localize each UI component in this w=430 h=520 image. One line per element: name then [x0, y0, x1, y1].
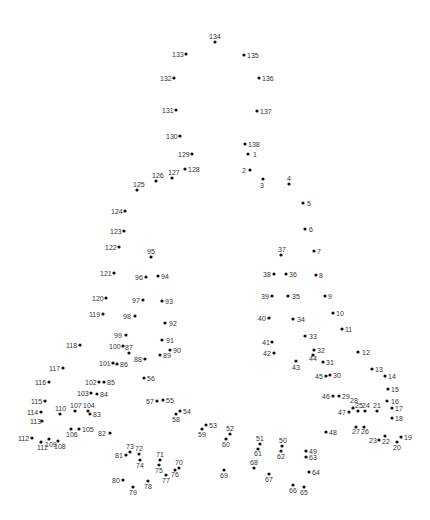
dot-label: 59 — [198, 431, 206, 438]
dot-16: 16 — [385, 398, 398, 405]
dot-label: 106 — [66, 431, 78, 438]
dot-label: 71 — [156, 451, 164, 458]
dot-119: 119 — [89, 311, 105, 318]
dot-marker — [121, 478, 124, 481]
dot-36: 36 — [284, 271, 296, 278]
dot-60: 60 — [222, 437, 230, 448]
dot-marker — [154, 179, 157, 182]
dot-marker — [307, 470, 310, 473]
dot-marker — [270, 340, 273, 343]
dot-label: 12 — [362, 349, 370, 356]
dot-79: 79 — [129, 485, 137, 496]
dot-92: 92 — [163, 320, 176, 327]
dot-82: 82 — [98, 430, 112, 437]
dot-94: 94 — [156, 273, 168, 280]
dot-label: 88 — [134, 356, 142, 363]
dot-137: 137 — [255, 108, 271, 115]
dot-78: 78 — [144, 479, 152, 490]
dot-100: 100 — [109, 343, 125, 350]
dot-marker — [160, 299, 163, 302]
dot-marker — [351, 406, 354, 409]
dot-label: 38 — [263, 271, 271, 278]
dot-label: 102 — [85, 379, 97, 386]
dot-115: 115 — [31, 398, 47, 405]
dot-marker — [248, 168, 251, 171]
dot-label: 11 — [345, 326, 352, 333]
dot-23: 23 — [369, 437, 381, 444]
dot-label: 41 — [262, 339, 270, 346]
dot-10: 10 — [331, 310, 343, 317]
dot-37: 37 — [278, 246, 286, 257]
dot-marker — [95, 392, 98, 395]
dot-label: 125 — [133, 181, 145, 188]
dot-marker — [115, 362, 118, 365]
dot-marker — [163, 321, 166, 324]
dot-51: 51 — [256, 435, 264, 446]
dot-label: 93 — [165, 298, 173, 305]
dot-marker — [183, 167, 186, 170]
dot-marker — [155, 399, 158, 402]
dot-marker — [156, 274, 159, 277]
dot-58: 58 — [172, 412, 180, 423]
dot-marker — [184, 52, 187, 55]
dot-marker — [303, 334, 306, 337]
dot-57: 57 — [146, 398, 159, 405]
dot-label: 57 — [146, 398, 154, 405]
dot-label: 75 — [155, 467, 163, 474]
dot-29: 29 — [337, 393, 349, 400]
dot-67: 67 — [265, 472, 273, 483]
dot-113: 113 — [30, 418, 44, 425]
dot-label: 95 — [147, 248, 155, 255]
dot-label: 31 — [326, 359, 334, 366]
dot-label: 54 — [183, 408, 191, 415]
dot-marker — [161, 398, 164, 401]
dot-label: 56 — [147, 375, 155, 382]
dot-label: 105 — [82, 426, 94, 433]
dot-marker — [149, 255, 152, 258]
dot-marker — [286, 294, 289, 297]
dot-76: 76 — [171, 468, 179, 478]
dot-marker — [246, 152, 249, 155]
dot-marker — [280, 444, 283, 447]
dot-marker — [331, 394, 334, 397]
dot-marker — [47, 380, 50, 383]
dot-marker — [261, 177, 264, 180]
dot-marker — [86, 409, 89, 412]
dot-31: 31 — [321, 359, 333, 366]
dot-3: 3 — [260, 177, 265, 189]
dot-8: 8 — [314, 272, 323, 279]
dot-27: 27 — [352, 425, 360, 435]
dot-label: 79 — [129, 489, 137, 496]
dot-marker — [204, 423, 207, 426]
dot-marker — [301, 201, 304, 204]
dot-label: 127 — [168, 169, 180, 176]
dot-label: 69 — [220, 472, 228, 479]
dot-marker — [324, 430, 327, 433]
dot-35: 35 — [286, 293, 299, 300]
dot-to-dot-drawing: 1234567891011121314151617181920212223242… — [0, 0, 430, 520]
dot-label: 122 — [105, 244, 117, 251]
dot-47: 47 — [338, 409, 351, 416]
dot-14: 14 — [383, 373, 395, 380]
dot-label: 74 — [136, 462, 144, 469]
dot-89: 89 — [158, 352, 170, 359]
dot-69: 69 — [220, 468, 228, 479]
dot-marker — [252, 466, 255, 469]
dot-label: 81 — [115, 452, 123, 459]
dot-label: 53 — [209, 422, 217, 429]
dot-marker — [123, 209, 126, 212]
dot-52: 52 — [226, 425, 234, 436]
dot-label: 33 — [309, 333, 317, 340]
dot-label: 131 — [162, 107, 174, 114]
dot-24: 24 — [362, 402, 370, 413]
dot-label: 120 — [92, 295, 104, 302]
dot-label: 18 — [395, 415, 403, 422]
dot-marker — [228, 432, 231, 435]
dot-label: 68 — [250, 459, 258, 466]
dot-133: 133 — [172, 51, 188, 58]
dot-114: 114 — [27, 409, 43, 416]
dot-marker — [272, 351, 275, 354]
dot-label: 26 — [361, 428, 369, 435]
dot-6: 6 — [303, 226, 313, 233]
dot-label: 30 — [333, 372, 341, 379]
